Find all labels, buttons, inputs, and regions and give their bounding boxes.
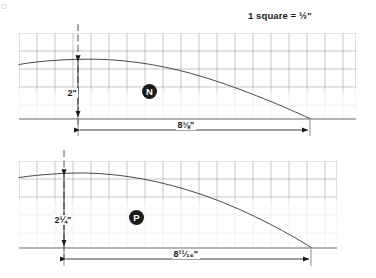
panel-p-curve (19, 173, 311, 247)
panel-n-height-label: 2" (66, 88, 78, 98)
panel-p-grid (19, 161, 337, 248)
panel-p-badge: P (129, 210, 144, 225)
diagram-svg (0, 0, 376, 278)
diagram-canvas: D 1 square = ½" (0, 0, 376, 278)
panel-p-width-label: 8¹¹⁄₁₆" (172, 249, 200, 259)
panel-n-width-label: 8⅛" (176, 120, 196, 130)
panel-p-height-label: 2¼" (53, 215, 73, 225)
panel-n-curve (19, 59, 310, 118)
panel-n-badge: N (142, 84, 157, 99)
panel-n-grid (19, 33, 356, 119)
